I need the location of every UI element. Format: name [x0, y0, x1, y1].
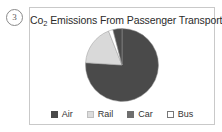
- legend-item-car[interactable]: Car: [127, 110, 153, 119]
- chart-title: Co2 Emissions From Passenger Transport: [30, 14, 214, 26]
- pie-chart-svg: [84, 28, 160, 102]
- legend-swatch-air-icon: [51, 111, 58, 118]
- legend-item-air[interactable]: Air: [51, 110, 73, 119]
- chart-card: Co2 Emissions From Passenger Transport A…: [29, 7, 215, 125]
- legend-item-rail[interactable]: Rail: [87, 110, 114, 119]
- legend-label-car: Car: [138, 110, 153, 119]
- legend-label-bus: Bus: [178, 110, 194, 119]
- question-number-badge: 3: [6, 9, 23, 26]
- legend-swatch-car-icon: [127, 111, 134, 118]
- chart-title-subscript: 2: [43, 19, 47, 28]
- legend-swatch-rail-icon: [87, 111, 94, 118]
- legend-swatch-bus-icon: [167, 111, 174, 118]
- screenshot-root: 3 Co2 Emissions From Passenger Transport…: [0, 0, 222, 132]
- legend-label-rail: Rail: [98, 110, 114, 119]
- legend-label-air: Air: [62, 110, 73, 119]
- chart-legend: AirRailCarBus: [30, 110, 214, 119]
- chart-title-prefix: Co: [30, 14, 43, 26]
- legend-item-bus[interactable]: Bus: [167, 110, 194, 119]
- chart-title-rest: Emissions From Passenger Transport: [47, 14, 222, 26]
- pie-chart: [30, 28, 214, 103]
